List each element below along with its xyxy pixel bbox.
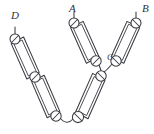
label-c: C	[107, 52, 114, 62]
label-b: B	[142, 2, 149, 14]
wire-a-to-center	[99, 65, 101, 71]
circuit-schematic-canvas: D A B C	[0, 0, 154, 134]
component-group	[11, 21, 139, 118]
wire-c-to-center	[104, 64, 112, 72]
label-a: A	[68, 2, 76, 14]
circuit-diagram: D A B C	[0, 0, 154, 134]
wire-bottom-arc	[60, 118, 73, 122]
label-d: D	[10, 9, 19, 21]
